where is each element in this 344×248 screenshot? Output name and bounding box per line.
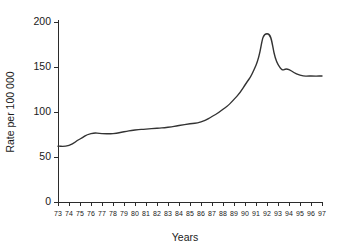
x-tick-label: 76 <box>87 210 95 217</box>
x-tick-label: 78 <box>109 210 117 217</box>
x-tick-label: 84 <box>175 210 183 217</box>
y-axis-title: Rate per 100 000 <box>4 71 16 152</box>
x-tick-label: 91 <box>252 210 260 217</box>
y-tick-label: 0 <box>45 195 51 207</box>
x-tick-label: 87 <box>208 210 216 217</box>
y-tick-label: 50 <box>39 150 51 162</box>
x-tick-label: 73 <box>54 210 62 217</box>
y-tick-label: 150 <box>33 60 51 72</box>
y-tick-label: 200 <box>33 15 51 27</box>
x-tick-label: 88 <box>219 210 227 217</box>
x-tick-label: 83 <box>164 210 172 217</box>
x-tick-label: 96 <box>307 210 315 217</box>
y-axis: 050100150200 <box>33 15 58 207</box>
data-series-group <box>58 34 322 147</box>
x-axis: 7374757677787980818283848586878889909192… <box>54 202 326 217</box>
line-chart: 050100150200 737475767778798081828384858… <box>0 0 344 248</box>
data-line-rate-per-100-000 <box>58 34 322 147</box>
x-axis-title: Years <box>172 231 198 243</box>
x-tick-label: 95 <box>296 210 304 217</box>
chart-container: 050100150200 737475767778798081828384858… <box>0 0 344 248</box>
x-tick-label: 79 <box>120 210 128 217</box>
x-tick-label: 82 <box>153 210 161 217</box>
x-tick-label: 85 <box>186 210 194 217</box>
x-tick-label: 92 <box>263 210 271 217</box>
y-tick-label: 100 <box>33 105 51 117</box>
x-tick-label: 80 <box>131 210 139 217</box>
x-tick-label: 97 <box>318 210 326 217</box>
x-tick-label: 81 <box>142 210 150 217</box>
x-tick-label: 86 <box>197 210 205 217</box>
x-tick-label: 75 <box>76 210 84 217</box>
x-tick-label: 93 <box>274 210 282 217</box>
x-tick-label: 74 <box>65 210 73 217</box>
x-tick-label: 77 <box>98 210 106 217</box>
x-tick-label: 89 <box>230 210 238 217</box>
x-tick-label: 94 <box>285 210 293 217</box>
x-tick-label: 90 <box>241 210 249 217</box>
